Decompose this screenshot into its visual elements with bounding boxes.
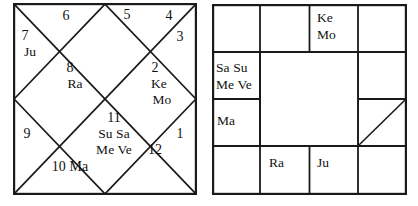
south-centre-hollow [261,53,358,145]
north-chart-lines [13,3,197,195]
south-chart-lines [212,4,407,195]
north-indian-chart: 6 5 4 7 Ju 3 8 Ra 2 Ke Mo 11 Su Sa Me Ve… [13,3,197,195]
south-indian-chart: Ke Mo Sa Su Me Ve Ma Ra Ju [212,4,407,195]
astrology-charts-page: 6 5 4 7 Ju 3 8 Ra 2 Ke Mo 11 Su Sa Me Ve… [0,0,418,206]
